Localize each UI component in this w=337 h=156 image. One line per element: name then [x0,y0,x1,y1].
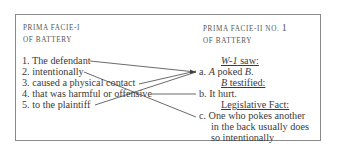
connector-5-a [95,72,196,105]
connector-3-a [139,71,196,84]
connector-2-c [84,72,196,117]
connection-lines [0,0,337,156]
connector-1-a [90,61,196,72]
